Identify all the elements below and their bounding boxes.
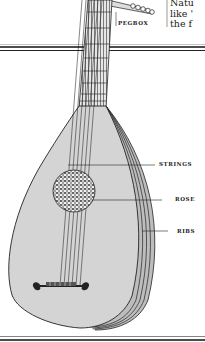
rose bbox=[53, 170, 95, 212]
lute-drawing bbox=[0, 0, 205, 342]
soundboard bbox=[9, 106, 139, 328]
side-paragraph: Natu like ' the f bbox=[170, 0, 194, 30]
side-text-line: the f bbox=[170, 19, 194, 30]
lute-illustration: PEGBOX STRINGS ROSE RIBS Natu like ' the… bbox=[0, 0, 205, 342]
bottom-rule bbox=[0, 337, 205, 341]
strings-label: STRINGS bbox=[159, 161, 192, 167]
neck bbox=[79, 0, 112, 108]
pegbox-label: PEGBOX bbox=[118, 20, 148, 26]
ribs-label: RIBS bbox=[177, 228, 195, 234]
rose-label: ROSE bbox=[175, 196, 195, 202]
